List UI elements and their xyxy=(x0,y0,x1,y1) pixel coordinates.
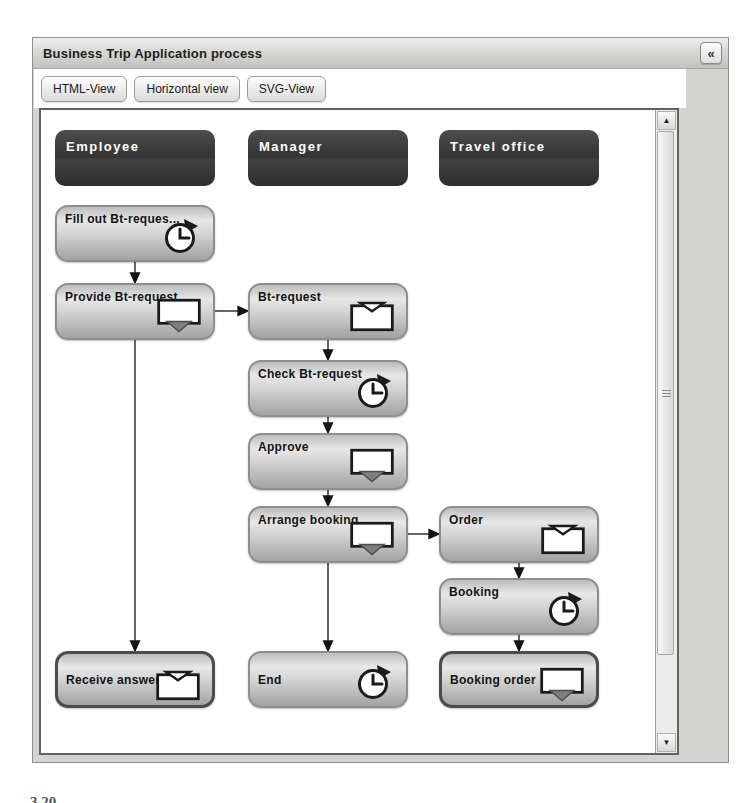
node-label: Booking xyxy=(449,585,499,599)
node-label: Bt-request xyxy=(258,290,321,304)
receive-message-icon xyxy=(154,666,202,704)
node-fill-out-bt-request[interactable]: Fill out Bt-reques... xyxy=(55,205,215,262)
diagram-canvas: Employee Manager Travel office xyxy=(41,110,655,753)
send-message-icon xyxy=(348,447,396,485)
node-arrange-booking[interactable]: Arrange booking xyxy=(248,506,408,563)
process-viewer-window: Business Trip Application process « HTML… xyxy=(32,37,729,763)
timer-icon xyxy=(161,216,201,256)
receive-message-icon xyxy=(539,520,587,558)
lane-header-travel-office[interactable]: Travel office xyxy=(439,130,599,186)
scroll-up-button[interactable]: ▲ xyxy=(657,111,676,130)
scrollbar-thumb[interactable] xyxy=(657,131,674,655)
html-view-button[interactable]: HTML-View xyxy=(41,76,127,102)
horizontal-view-button[interactable]: Horizontal view xyxy=(134,76,239,102)
arrow-down-icon: ▼ xyxy=(663,738,671,747)
node-provide-bt-request[interactable]: Provide Bt-request xyxy=(55,283,215,340)
lane-label: Employee xyxy=(66,139,139,154)
node-order[interactable]: Order xyxy=(439,506,599,563)
node-label: Arrange booking xyxy=(258,513,359,527)
chevron-double-left-icon: « xyxy=(707,47,714,60)
node-label: Booking order xyxy=(450,673,536,687)
node-end[interactable]: End xyxy=(248,651,408,708)
lane-header-employee[interactable]: Employee xyxy=(55,130,215,186)
send-message-icon xyxy=(155,297,203,335)
send-message-icon xyxy=(538,666,586,704)
scrollbar-grip-icon xyxy=(662,393,671,394)
lane-label: Travel office xyxy=(450,139,545,154)
lane-label: Manager xyxy=(259,139,323,154)
collapse-panel-button[interactable]: « xyxy=(700,42,722,64)
lane-header-manager[interactable]: Manager xyxy=(248,130,408,186)
receive-message-icon xyxy=(348,297,396,335)
node-label: Approve xyxy=(258,440,309,454)
node-label: Order xyxy=(449,513,483,527)
titlebar: Business Trip Application process xyxy=(33,38,728,69)
node-check-bt-request[interactable]: Check Bt-request xyxy=(248,360,408,417)
send-message-icon xyxy=(348,520,396,558)
timer-icon xyxy=(354,371,394,411)
node-booking-order[interactable]: Booking order xyxy=(439,651,599,708)
vertical-scrollbar[interactable]: ▲ ▼ xyxy=(655,110,677,753)
timer-icon xyxy=(545,589,585,629)
timer-icon xyxy=(354,662,394,702)
node-label: Check Bt-request xyxy=(258,367,362,381)
svg-view-button[interactable]: SVG-View xyxy=(247,76,326,102)
node-bt-request[interactable]: Bt-request xyxy=(248,283,408,340)
node-label: Receive answer xyxy=(66,673,160,687)
scroll-down-button[interactable]: ▼ xyxy=(657,733,676,752)
arrow-up-icon: ▲ xyxy=(663,116,671,125)
node-booking[interactable]: Booking xyxy=(439,578,599,635)
diagram-panel: Employee Manager Travel office xyxy=(39,108,679,755)
cropped-caption-fragment: 3.20 xyxy=(30,794,740,803)
view-toolbar: HTML-View Horizontal view SVG-View xyxy=(34,69,686,108)
node-receive-answer[interactable]: Receive answer xyxy=(55,651,215,708)
node-label: End xyxy=(258,673,282,687)
node-approve[interactable]: Approve xyxy=(248,433,408,490)
page-title: Business Trip Application process xyxy=(43,46,262,61)
